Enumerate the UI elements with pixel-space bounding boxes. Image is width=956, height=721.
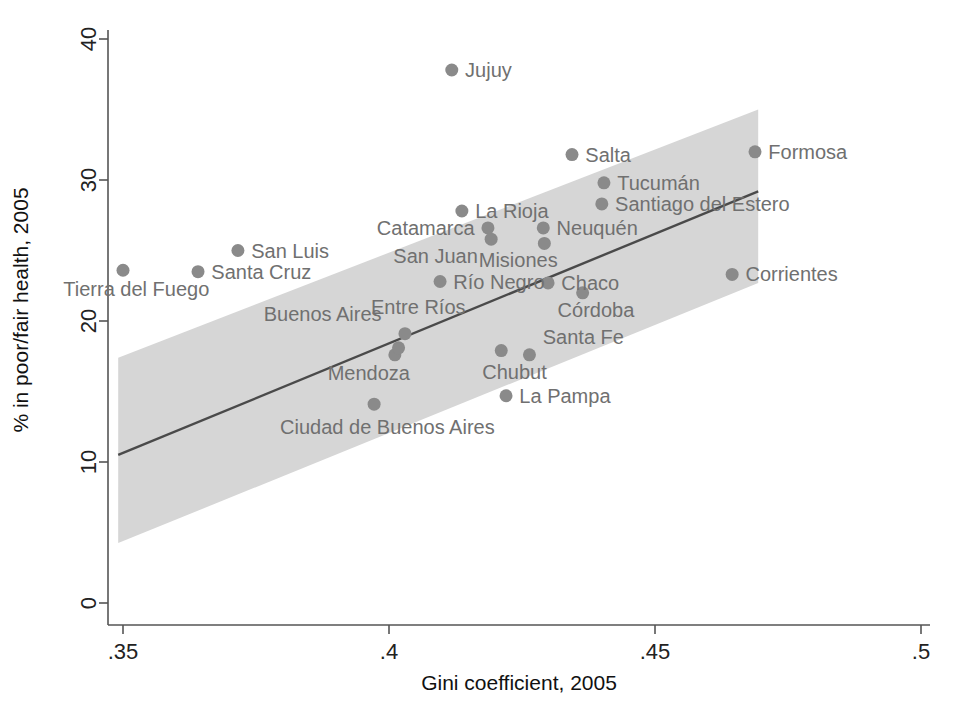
data-point-label: Río Negro — [453, 271, 544, 293]
data-point — [566, 148, 579, 161]
data-point — [523, 348, 536, 361]
y-axis-title: % in poor/fair health, 2005 — [9, 187, 32, 432]
y-tick-label: 10 — [76, 450, 101, 474]
data-point-label: Santiago del Estero — [615, 193, 790, 215]
data-point — [495, 344, 508, 357]
data-point — [485, 233, 498, 246]
data-point — [749, 145, 762, 158]
data-point-label: Chubut — [482, 361, 547, 383]
data-point-label: Córdoba — [558, 299, 636, 321]
data-point-label: Chaco — [561, 272, 619, 294]
x-tick-label: .5 — [912, 639, 930, 664]
data-point-label: Santa Fe — [543, 326, 624, 348]
x-tick-label: .35 — [108, 639, 139, 664]
x-axis-title: Gini coefficient, 2005 — [421, 671, 617, 694]
data-point-label: Ciudad de Buenos Aires — [280, 416, 495, 438]
data-point — [481, 221, 494, 234]
data-point — [538, 237, 551, 250]
data-point — [398, 327, 411, 340]
data-point — [595, 197, 608, 210]
x-axis-ticks: .35.4.45.5 — [108, 625, 930, 664]
y-tick-label: 0 — [76, 597, 101, 609]
data-point-label: Tucumán — [617, 172, 700, 194]
data-point — [192, 265, 205, 278]
data-point — [455, 205, 468, 218]
data-point — [500, 389, 513, 402]
data-point-label: Tierra del Fuego — [63, 278, 209, 300]
data-point-label: Salta — [585, 144, 631, 166]
data-point — [597, 176, 610, 189]
data-point-label: Neuquén — [557, 217, 638, 239]
data-point — [726, 268, 739, 281]
data-point-label: Misiones — [479, 249, 558, 271]
data-point-label: La Pampa — [519, 385, 611, 407]
data-point — [537, 221, 550, 234]
data-point — [117, 264, 130, 277]
y-tick-label: 30 — [76, 168, 101, 192]
data-point-label: San Juan — [393, 245, 478, 267]
data-point-label: Buenos Aires — [264, 303, 382, 325]
data-point-label: Jujuy — [465, 59, 512, 81]
data-point-label: Mendoza — [328, 362, 411, 384]
y-tick-label: 20 — [76, 309, 101, 333]
plot-svg: .35.4.45.5 010203040 JujuyFormosaSaltaTu… — [0, 0, 956, 721]
x-tick-label: .4 — [380, 639, 398, 664]
data-point-label: Entre Ríos — [371, 296, 465, 318]
data-point-label: Formosa — [768, 141, 848, 163]
data-point — [231, 244, 244, 257]
data-point-label: San Luis — [251, 240, 329, 262]
y-axis-ticks: 010203040 — [76, 27, 109, 609]
data-point-label: Santa Cruz — [211, 261, 311, 283]
y-tick-label: 40 — [76, 27, 101, 51]
scatter-chart: .35.4.45.5 010203040 JujuyFormosaSaltaTu… — [0, 0, 956, 721]
data-point-label: Corrientes — [745, 263, 837, 285]
data-point — [445, 64, 458, 77]
data-point-label: Catamarca — [377, 217, 476, 239]
data-point — [392, 341, 405, 354]
data-point — [434, 275, 447, 288]
data-point — [368, 398, 381, 411]
x-tick-label: .45 — [640, 639, 671, 664]
data-point-label: La Rioja — [475, 200, 549, 222]
